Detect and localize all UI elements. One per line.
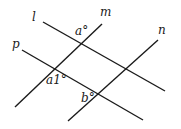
angle-label-a1: a1°	[46, 74, 67, 86]
label-line-m: m	[100, 6, 111, 18]
angle-label-b: b°	[81, 92, 95, 104]
line-n	[68, 40, 158, 121]
line-p	[22, 50, 143, 120]
angle-label-a: a°	[75, 25, 88, 37]
label-line-n: n	[158, 24, 166, 36]
lines-svg	[0, 0, 181, 129]
geometry-diagram: l m n p a° a1° b°	[0, 0, 181, 129]
label-line-p: p	[12, 38, 20, 50]
label-line-l: l	[32, 11, 36, 23]
